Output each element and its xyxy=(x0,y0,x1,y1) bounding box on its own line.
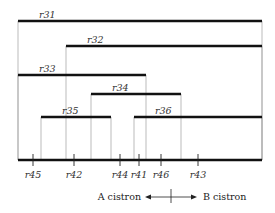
deletion-label-r35: r35 xyxy=(62,105,79,116)
arrow-right-icon xyxy=(191,195,197,200)
marker-label-r46: r46 xyxy=(153,169,170,180)
deletion-label-r36: r36 xyxy=(155,105,172,116)
cistron-boundary-arrows xyxy=(145,189,197,203)
point-mutation-markers: r45r42r44r41r46r43 xyxy=(25,154,207,180)
deletion-bars: r31r32r33r34r35r36 xyxy=(18,9,262,117)
deletion-label-r33: r33 xyxy=(39,63,56,74)
cistron-caption: A cistron B cistron xyxy=(97,189,247,203)
deletion-label-r31: r31 xyxy=(39,9,56,20)
a-cistron-label: A cistron xyxy=(97,191,141,202)
marker-label-r42: r42 xyxy=(66,169,83,180)
vertical-guide-lines xyxy=(18,21,262,160)
b-cistron-label: B cistron xyxy=(203,191,246,202)
deletion-map-diagram: r31r32r33r34r35r36 r45r42r44r41r46r43 A … xyxy=(0,0,275,213)
deletion-label-r32: r32 xyxy=(87,34,104,45)
arrow-left-icon xyxy=(145,195,151,200)
marker-label-r43: r43 xyxy=(190,169,207,180)
marker-label-r45: r45 xyxy=(25,169,42,180)
marker-label-r44: r44 xyxy=(112,169,129,180)
deletion-label-r34: r34 xyxy=(112,82,129,93)
marker-label-r41: r41 xyxy=(131,169,148,180)
